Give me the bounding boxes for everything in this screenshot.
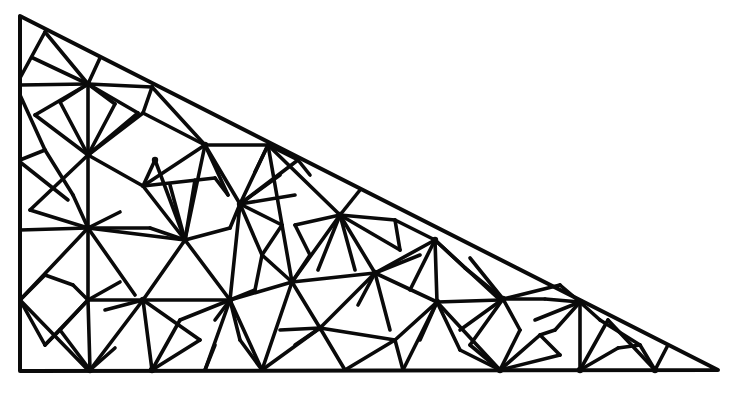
tiling-edge [292, 255, 310, 282]
hub-vertex [140, 297, 146, 303]
tiling-edge [320, 328, 395, 340]
tiling-edge [20, 95, 45, 150]
hub-vertex [372, 270, 378, 276]
tiling-edge [185, 180, 195, 240]
tiling-edge [375, 273, 437, 302]
tiling-edge [618, 345, 640, 348]
tiling-edge [437, 300, 500, 302]
tiling-edge [88, 113, 143, 155]
tiling-edge [88, 84, 152, 87]
tiling-edge [470, 299, 503, 345]
tiling-edge [262, 225, 282, 255]
hub-vertex [317, 325, 323, 331]
tiling-edge [20, 228, 88, 230]
hub-vertex [182, 237, 188, 243]
hub-vertex [227, 297, 233, 303]
tiling-edge [320, 328, 345, 370]
tiling-edge [20, 32, 45, 78]
tiling-edge [255, 255, 262, 290]
triangle-tiling-figure [0, 0, 740, 398]
tiling-edge [292, 273, 375, 282]
hub-vertex [202, 142, 208, 148]
tiling-edge [88, 58, 100, 84]
tiling-edge [20, 150, 45, 160]
tiling-edge [30, 155, 88, 210]
tiling-edge [185, 240, 230, 300]
tiling-edge [295, 225, 310, 255]
tiling-edge [600, 320, 640, 345]
tiling-edge [33, 58, 88, 84]
hub-vertex [237, 201, 243, 207]
tiling-edge [435, 240, 437, 302]
tiling-edge [292, 282, 320, 328]
tiling-edge [655, 345, 668, 370]
tiling-edge [88, 155, 143, 186]
tiling-edge [375, 255, 420, 273]
tiling-edge [60, 300, 88, 330]
tiling-edge [88, 300, 90, 370]
tiling-edge [280, 328, 320, 330]
tiling-edge [143, 300, 152, 370]
tiling-edge [230, 300, 262, 370]
tiling-edge [143, 113, 205, 145]
hub-vertex [85, 225, 91, 231]
tiling-edge [88, 212, 120, 228]
tiling-edge [437, 302, 460, 350]
tiling-edge [143, 240, 185, 300]
tiling-edge [340, 190, 360, 215]
tiling-edge [375, 273, 390, 330]
tiling-edge [88, 282, 120, 300]
tiling-edge [205, 145, 240, 204]
hub-vertex [152, 157, 158, 163]
tiling-edge [143, 87, 152, 113]
tiling-edge [20, 275, 45, 300]
tiling-edge [88, 104, 115, 155]
tiling-edge [185, 228, 230, 240]
tiling-edge [460, 299, 503, 330]
tiling-edge [262, 282, 292, 370]
outer-triangle [20, 16, 718, 371]
hub-vertex [337, 212, 343, 218]
tiling-edge [540, 335, 560, 355]
tiling-edge [503, 299, 520, 330]
tiling-edge [60, 102, 88, 155]
tiling-edge [90, 300, 143, 370]
hub-vertex [85, 81, 91, 87]
tiling-hub-points [85, 81, 658, 373]
tiling-edge [60, 330, 90, 370]
hub-vertex [500, 296, 506, 302]
tiling-edge [45, 275, 73, 285]
tiling-edge [395, 340, 403, 370]
tiling-edge [345, 340, 395, 370]
hub-vertex [432, 237, 438, 243]
hub-vertex [289, 279, 295, 285]
tiling-inner-lines [20, 32, 668, 370]
tiling-edge [73, 285, 88, 300]
tiling-edge [60, 84, 88, 102]
tiling-edge [20, 84, 88, 85]
hub-vertex [434, 299, 440, 305]
tiling-edge [540, 330, 555, 335]
tiling-edge [205, 345, 215, 370]
tiling-edge [320, 273, 375, 328]
tiling-edge [395, 302, 437, 340]
